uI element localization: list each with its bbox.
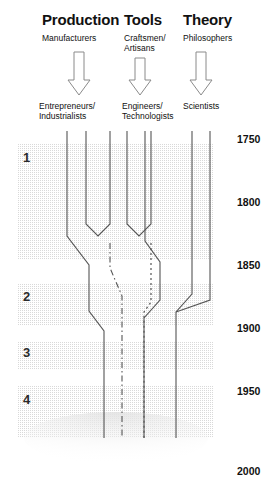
column-outcome-production-line1: Entrepreneurs/: [39, 101, 95, 111]
column-outcome-tools-line1: Engineers/: [122, 101, 163, 111]
band-fade: [24, 412, 208, 464]
band-rect-3: [18, 341, 214, 370]
year-label-1850: 1850: [237, 259, 260, 271]
year-label-1950: 1950: [237, 385, 260, 397]
column-title-tools: Tools: [124, 12, 162, 28]
down-arrow-icon-production: [68, 52, 90, 95]
column-source-theory: Philosophers: [183, 33, 232, 43]
column-outcome-tools-line2: Technologists: [122, 111, 174, 121]
year-label-2000: 2000: [237, 465, 260, 477]
band-label-4: 4: [23, 392, 30, 407]
column-source-tools-line1: Craftsmen/: [124, 33, 166, 43]
band-rect-1: [18, 144, 214, 260]
year-label-1800: 1800: [237, 196, 260, 208]
band-rect-2: [18, 283, 214, 325]
diagram-graphics: [0, 0, 277, 487]
band-label-1: 1: [23, 150, 30, 165]
band-label-3: 3: [23, 345, 30, 360]
band-label-2: 2: [23, 289, 30, 304]
year-label-1900: 1900: [237, 322, 260, 334]
column-source-production: Manufacturers: [42, 33, 96, 43]
column-title-production: Production: [42, 12, 119, 28]
column-source-tools-line2: Artisans: [124, 43, 155, 53]
column-outcome-theory-line1: Scientists: [183, 101, 219, 111]
column-title-theory: Theory: [183, 12, 232, 28]
year-label-1750: 1750: [237, 133, 260, 145]
diagram-canvas: Production Manufacturers Tools Craftsmen…: [0, 0, 277, 487]
down-arrow-icon-tools: [129, 58, 151, 95]
down-arrow-icon-theory: [190, 52, 212, 95]
column-outcome-production-line2: Industrialists: [39, 111, 86, 121]
